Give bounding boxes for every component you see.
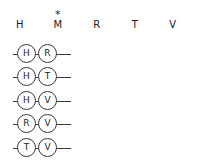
diagram-canvas: H * M R T V H R H T H V R V T V — [0, 0, 198, 167]
column-label-3: T — [127, 20, 143, 30]
pair-row: H V — [13, 91, 71, 112]
column-label-2: R — [89, 20, 105, 30]
node-second[interactable]: T — [38, 67, 57, 86]
column-header-1: * M — [50, 20, 66, 30]
column-header-0: H — [12, 20, 28, 30]
pair-row: H R — [13, 44, 71, 65]
pair-row: R V — [13, 114, 71, 135]
column-header-3: T — [127, 20, 143, 30]
column-header-2: R — [89, 20, 105, 30]
column-header-4: V — [165, 20, 181, 30]
node-second[interactable]: R — [38, 44, 57, 63]
node-first[interactable]: T — [17, 138, 36, 157]
node-first[interactable]: H — [17, 44, 36, 63]
column-label-0: H — [12, 20, 28, 30]
column-label-1: M — [50, 20, 66, 30]
node-first[interactable]: R — [17, 114, 36, 133]
column-marker-1: * — [50, 9, 66, 20]
pair-row: T V — [13, 138, 71, 159]
node-second[interactable]: V — [38, 138, 57, 157]
node-first[interactable]: H — [17, 67, 36, 86]
pair-row: H T — [13, 67, 71, 88]
node-second[interactable]: V — [38, 91, 57, 110]
column-label-4: V — [165, 20, 181, 30]
node-second[interactable]: V — [38, 114, 57, 133]
node-first[interactable]: H — [17, 91, 36, 110]
